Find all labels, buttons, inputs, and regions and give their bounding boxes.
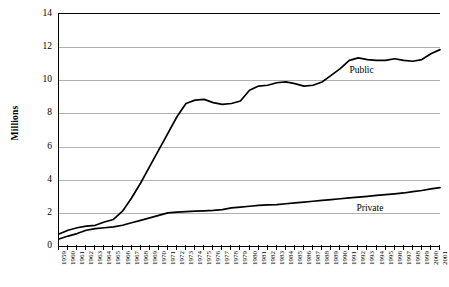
x-axis-tick-label: 1999 [424, 251, 431, 265]
x-axis-tick-label: 1968 [143, 251, 150, 265]
x-axis-tick [239, 245, 240, 250]
plot-inner: Public Private [59, 14, 440, 246]
x-axis-tick-label: 1983 [279, 251, 286, 265]
x-axis-tick [140, 245, 141, 250]
x-axis-tick [303, 245, 304, 250]
x-axis-tick-label: 1992 [360, 251, 367, 265]
x-axis-tick-label: 2001 [442, 251, 449, 265]
x-axis-tick-label: 1960 [70, 251, 77, 265]
x-axis-tick [312, 245, 313, 250]
x-axis-tick [276, 245, 277, 250]
x-axis-tick-label: 1976 [215, 251, 222, 265]
x-axis-tick [439, 245, 440, 250]
x-axis-tick [330, 245, 331, 250]
plot-area: Public Private [58, 13, 440, 247]
x-axis-tick-label: 1996 [397, 251, 404, 265]
x-axis-tick [376, 245, 377, 250]
x-axis-tick-label: 1959 [61, 251, 68, 265]
x-axis-tick-label: 1963 [97, 251, 104, 265]
x-axis-tick [357, 245, 358, 250]
x-axis-tick-label: 2000 [433, 251, 440, 265]
x-axis-tick-label: 1970 [161, 251, 168, 265]
x-axis-tick [403, 245, 404, 250]
x-axis-tick-label: 1962 [88, 251, 95, 265]
x-axis-tick-label: 1989 [333, 251, 340, 265]
y-axis-tick-label: 6 [47, 141, 52, 151]
x-axis-tick [112, 245, 113, 250]
x-axis-tick [366, 245, 367, 250]
x-axis-tick [267, 245, 268, 250]
x-axis-tick-label: 1998 [415, 251, 422, 265]
x-axis-tick-label: 1985 [297, 251, 304, 265]
x-axis-tick [122, 245, 123, 250]
x-axis-tick [149, 245, 150, 250]
x-axis-tick [103, 245, 104, 250]
x-axis-tick [421, 245, 422, 250]
y-axis-title: Millions [6, 0, 24, 245]
x-axis-tick-label: 1967 [134, 251, 141, 265]
x-axis-tick [212, 245, 213, 250]
x-axis-tick [249, 245, 250, 250]
x-axis-tick-labels: 1959196019611962196319641965196619671968… [58, 251, 439, 287]
y-axis-tick-label: 4 [47, 174, 52, 184]
y-axis-tick-label: 10 [43, 74, 53, 84]
y-axis-tick-label: 2 [47, 207, 52, 217]
x-axis-tick-label: 1961 [79, 251, 86, 265]
x-axis-tick [258, 245, 259, 250]
x-axis-tick [67, 245, 68, 250]
x-axis-tick-label: 1975 [206, 251, 213, 265]
x-axis-tick [285, 245, 286, 250]
x-axis-tick [321, 245, 322, 250]
x-axis-tick-label: 1969 [152, 251, 159, 265]
x-axis-tick [230, 245, 231, 250]
x-axis-tick [385, 245, 386, 250]
x-axis-tick [167, 245, 168, 250]
x-axis-tick [58, 245, 59, 250]
x-axis-tick-label: 1971 [170, 251, 177, 265]
series-label-public: Public [349, 65, 373, 75]
x-axis-tick-label: 1964 [106, 251, 113, 265]
y-axis-tick-label: 12 [43, 41, 53, 51]
x-axis-tick-label: 1994 [379, 251, 386, 265]
x-axis-tick [394, 245, 395, 250]
x-axis-tick-label: 1987 [315, 251, 322, 265]
x-axis-tick-label: 1984 [288, 251, 295, 265]
x-axis-tick-label: 1965 [115, 251, 122, 265]
x-axis-tick [339, 245, 340, 250]
x-axis-tick-label: 1981 [261, 251, 268, 265]
x-axis-tick-label: 1978 [233, 251, 240, 265]
y-axis-tick-label: 14 [43, 8, 53, 18]
x-axis-tick [348, 245, 349, 250]
x-axis-tick-label: 1972 [179, 251, 186, 265]
x-axis-tick [94, 245, 95, 250]
x-axis-ticks [58, 245, 439, 250]
series-label-private: Private [357, 203, 384, 213]
x-axis-tick-label: 1993 [369, 251, 376, 265]
x-axis-tick-label: 1988 [324, 251, 331, 265]
x-axis-tick [203, 245, 204, 250]
x-axis-tick-label: 1966 [125, 251, 132, 265]
x-axis-tick-label: 1986 [306, 251, 313, 265]
x-axis-tick [221, 245, 222, 250]
x-axis-tick [158, 245, 159, 250]
y-axis-title-label: Millions [10, 105, 20, 140]
x-axis-tick-label: 1980 [252, 251, 259, 265]
x-axis-tick [131, 245, 132, 250]
x-axis-tick [176, 245, 177, 250]
y-axis-tick-label: 8 [47, 107, 52, 117]
x-axis-tick-label: 1977 [224, 251, 231, 265]
x-axis-tick-label: 1979 [242, 251, 249, 265]
x-axis-tick [294, 245, 295, 250]
y-axis-tick-labels: 02468101214 [24, 0, 52, 287]
x-axis-tick [185, 245, 186, 250]
x-axis-tick [412, 245, 413, 250]
x-axis-tick [194, 245, 195, 250]
x-axis-tick-label: 1974 [197, 251, 204, 265]
x-axis-tick [430, 245, 431, 250]
x-axis-tick-label: 1997 [406, 251, 413, 265]
x-axis-tick-label: 1995 [388, 251, 395, 265]
x-axis-tick-label: 1990 [342, 251, 349, 265]
x-axis-tick-label: 1991 [351, 251, 358, 265]
y-axis-tick-label: 0 [47, 240, 52, 250]
